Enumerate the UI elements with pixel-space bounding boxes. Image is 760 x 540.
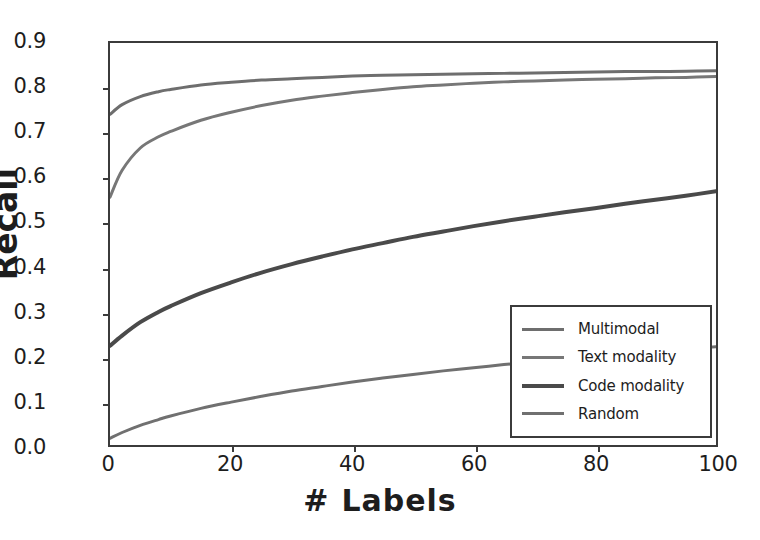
legend-label: Text modality: [578, 348, 676, 366]
x-tick-label: 0: [73, 452, 143, 476]
y-tick-label: 0.3: [0, 300, 46, 324]
y-tick-label: 0.1: [0, 390, 46, 414]
legend-entry[interactable]: Text modality: [512, 344, 710, 370]
x-axis-title-hash: #: [303, 483, 329, 518]
x-tick-mark: [598, 445, 600, 452]
legend-label: Code modality: [578, 377, 684, 395]
x-axis-title-word: Labels: [341, 483, 456, 518]
x-tick-label: 40: [317, 452, 387, 476]
legend-entry[interactable]: Random: [512, 401, 710, 427]
legend-label: Multimodal: [578, 320, 659, 338]
x-tick-label: 20: [195, 452, 265, 476]
y-tick-label: 0.6: [0, 164, 46, 188]
y-tick-mark: [103, 178, 110, 180]
y-tick-mark: [103, 359, 110, 361]
y-tick-mark: [103, 314, 110, 316]
y-tick-label: 0.4: [0, 255, 46, 279]
y-tick-mark: [103, 133, 110, 135]
y-tick-mark: [103, 88, 110, 90]
legend-entry[interactable]: Code modality: [512, 373, 710, 399]
x-tick-label: 100: [683, 452, 753, 476]
x-tick-mark: [232, 445, 234, 452]
legend-swatch: [522, 328, 564, 331]
x-tick-label: 60: [439, 452, 509, 476]
legend-entry[interactable]: Multimodal: [512, 316, 710, 342]
chart-page: Recall 0.00.10.20.30.40.50.60.70.80.9 02…: [0, 0, 760, 540]
y-tick-label: 0.8: [0, 74, 46, 98]
legend-label: Random: [578, 405, 639, 423]
legend-swatch: [522, 356, 564, 359]
x-tick-label: 80: [561, 452, 631, 476]
x-axis-title: #Labels: [0, 483, 760, 518]
y-tick-label: 0.5: [0, 209, 46, 233]
legend-box: MultimodalText modalityCode modalityRand…: [510, 305, 712, 438]
legend-swatch: [522, 412, 564, 415]
y-tick-mark: [103, 404, 110, 406]
y-tick-mark: [103, 269, 110, 271]
x-tick-mark: [476, 445, 478, 452]
y-tick-label: 0.7: [0, 119, 46, 143]
x-tick-mark: [354, 445, 356, 452]
legend-swatch: [522, 384, 564, 388]
series-line: [110, 76, 716, 197]
y-tick-label: 0.0: [0, 435, 46, 459]
y-tick-label: 0.9: [0, 29, 46, 53]
y-tick-label: 0.2: [0, 345, 46, 369]
y-tick-mark: [103, 223, 110, 225]
